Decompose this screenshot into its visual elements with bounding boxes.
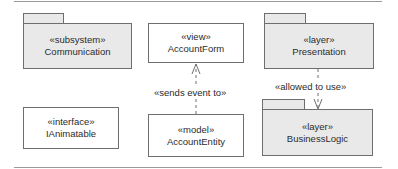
ianimatable-name: IAnimatable	[46, 128, 96, 140]
bottom-rule	[14, 167, 382, 168]
account-entity-name: AccountEntity	[167, 136, 225, 148]
account-entity-class[interactable]: «model» AccountEntity	[148, 114, 244, 157]
communication-package[interactable]: «subsystem» Communication	[23, 23, 132, 69]
communication-name: Communication	[45, 46, 111, 58]
account-form-class[interactable]: «view» AccountForm	[148, 23, 244, 63]
ianimatable-stereotype: «interface»	[47, 116, 94, 128]
presentation-stereotype: «layer»	[303, 34, 334, 46]
business-logic-stereotype: «layer»	[302, 121, 333, 133]
ianimatable-interface[interactable]: «interface» IAnimatable	[23, 107, 119, 149]
account-entity-stereotype: «model»	[178, 124, 214, 136]
business-logic-package[interactable]: «layer» BusinessLogic	[262, 109, 373, 156]
top-rule	[14, 1, 382, 2]
presentation-name: Presentation	[292, 46, 345, 58]
communication-stereotype: «subsystem»	[50, 34, 106, 46]
business-logic-name: BusinessLogic	[287, 133, 348, 145]
account-form-name: AccountForm	[168, 43, 225, 55]
sends-event-to-label: «sends event to»	[153, 87, 227, 98]
presentation-package[interactable]: «layer» Presentation	[264, 23, 374, 69]
account-form-stereotype: «view»	[181, 31, 211, 43]
allowed-to-use-label: «allowed to use»	[274, 81, 347, 92]
